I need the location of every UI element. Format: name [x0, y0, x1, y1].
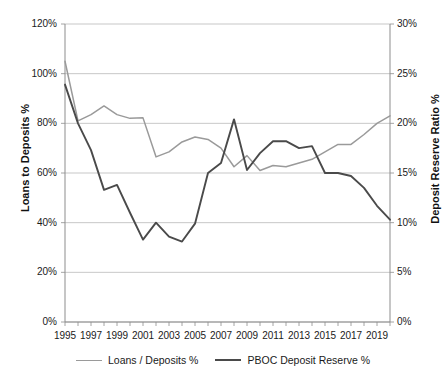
chart-container: Loans to Deposits % Deposit Reserve Rati… [0, 0, 446, 385]
legend-color-swatch [215, 359, 241, 361]
legend-item[interactable]: PBOC Deposit Reserve % [215, 354, 370, 366]
series-line [65, 61, 390, 170]
data-series [65, 61, 390, 241]
legend-color-swatch [76, 360, 102, 361]
legend-label: PBOC Deposit Reserve % [247, 354, 370, 366]
chart-legend: Loans / Deposits %PBOC Deposit Reserve % [0, 354, 446, 366]
series-line [65, 85, 390, 242]
legend-label: Loans / Deposits % [108, 354, 198, 366]
plot-area [0, 0, 446, 385]
legend-item[interactable]: Loans / Deposits % [76, 354, 198, 366]
